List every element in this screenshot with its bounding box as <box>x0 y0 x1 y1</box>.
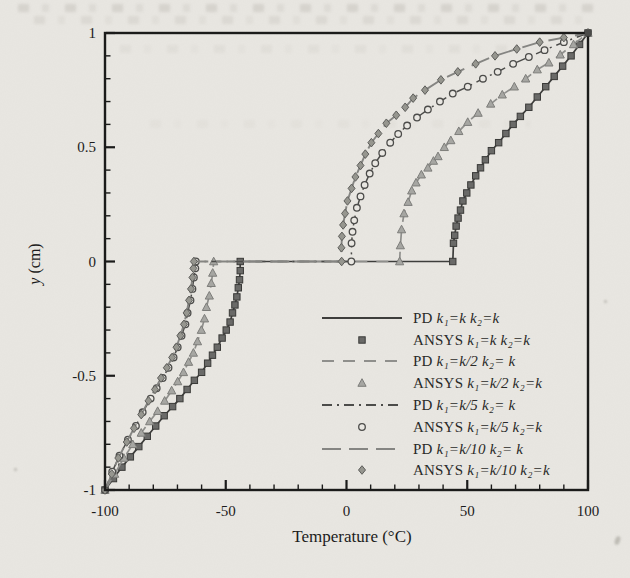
legend-method: ANSYS <box>413 462 463 478</box>
ansys-marker-square <box>237 267 243 273</box>
x-tick-label: -50 <box>216 503 236 519</box>
ansys-marker-square <box>495 139 501 145</box>
ansys-marker-circle <box>510 61 517 68</box>
legend-square-marker <box>359 337 365 343</box>
legend-entry-ansys-k1-k2: ANSYS k₁=k/2 k₂=k <box>413 376 542 391</box>
ansys-marker-square <box>455 215 461 221</box>
ansys-marker-circle <box>541 47 548 54</box>
ansys-marker-circle <box>414 114 421 121</box>
ansys-marker-square <box>219 335 225 341</box>
x-axis-title: Temperature (°C) <box>292 527 411 546</box>
legend-entry-pd-k1-k: PD k₁=k k₂=k <box>413 311 499 326</box>
ansys-marker-circle <box>404 122 411 129</box>
ansys-marker-square <box>177 395 183 401</box>
y-tick-label: 1 <box>89 25 97 41</box>
x-tick-label: 50 <box>460 503 475 519</box>
legend-params: k₁=k/10 k₂= k <box>437 441 524 457</box>
ansys-marker-circle <box>425 106 432 113</box>
ansys-marker-square <box>468 182 474 188</box>
ansys-marker-square <box>534 94 540 100</box>
ansys-marker-circle <box>494 69 501 76</box>
ansys-marker-circle <box>464 83 471 90</box>
corner-convergence-dot <box>585 30 592 37</box>
ansys-marker-circle <box>379 150 386 157</box>
y-tick-label: -1 <box>84 482 97 498</box>
legend-params: k₁=k/10 k₂=k <box>467 462 550 478</box>
ansys-marker-square <box>209 352 215 358</box>
ansys-marker-square <box>543 83 549 89</box>
ansys-marker-square <box>457 207 463 213</box>
ansys-marker-square <box>223 327 229 333</box>
ansys-marker-square <box>451 232 457 238</box>
ansys-marker-square <box>227 319 233 325</box>
ansys-marker-square <box>450 240 456 246</box>
legend-entry-ansys-k1-k: ANSYS k₁=k k₂=k <box>413 333 530 348</box>
ansys-marker-circle <box>480 75 487 82</box>
ansys-marker-square <box>517 113 523 119</box>
legend-entry-ansys-k1-k10: ANSYS k₁=k/10 k₂=k <box>413 463 550 478</box>
y-tick-label: -0.5 <box>72 368 96 384</box>
legend-params: k₁=k/5 k₂=k <box>467 419 542 435</box>
ansys-marker-square <box>184 386 190 392</box>
ansys-marker-circle <box>449 90 456 97</box>
temperature-profile-chart: -100-50050100-1-0.500.51 Temperature (°C… <box>0 0 630 578</box>
y-axis-title: y (cm) <box>26 243 44 286</box>
legend-params: k₁=k k₂=k <box>437 310 500 326</box>
y-tick-label: 0 <box>89 254 97 270</box>
ansys-marker-square <box>236 277 242 283</box>
ansys-marker-square <box>450 258 456 264</box>
legend-method: ANSYS <box>413 375 463 391</box>
ansys-marker-square <box>169 403 175 409</box>
legend-entry-ansys-k1-k5: ANSYS k₁=k/5 k₂=k <box>413 420 542 435</box>
ansys-marker-square <box>460 198 466 204</box>
legend-params: k₁=k k₂=k <box>467 332 530 348</box>
ansys-marker-circle <box>437 98 444 105</box>
ansys-marker-circle <box>357 193 364 200</box>
ansys-marker-square <box>191 377 197 383</box>
legend-method: PD <box>413 353 433 369</box>
ansys-marker-square <box>198 369 204 375</box>
ansys-marker-circle <box>351 217 358 224</box>
ansys-marker-square <box>477 165 483 171</box>
ansys-marker-circle <box>372 160 379 167</box>
legend-params: k₁=k/2 k₂=k <box>467 375 542 391</box>
ansys-marker-square <box>503 130 509 136</box>
ansys-marker-circle <box>395 131 402 138</box>
ansys-marker-square <box>235 285 241 291</box>
x-tick-label: 100 <box>577 503 600 519</box>
legend-method: ANSYS <box>413 419 463 435</box>
legend-entry-pd-k1-k2: PD k₁=k/2 k₂= k <box>413 354 515 369</box>
ansys-marker-circle <box>361 182 368 189</box>
ansys-marker-square <box>482 157 488 163</box>
ansys-marker-circle <box>387 139 394 146</box>
ansys-marker-square <box>229 310 235 316</box>
legend-entry-pd-k1-k10: PD k₁=k/10 k₂= k <box>413 442 523 457</box>
scanned-page: -100-50050100-1-0.500.51 Temperature (°C… <box>0 0 630 578</box>
ansys-marker-square <box>473 173 479 179</box>
ansys-marker-square <box>161 413 167 419</box>
ansys-marker-circle <box>354 205 361 212</box>
ansys-marker-circle <box>348 258 355 265</box>
legend-method: PD <box>413 397 433 413</box>
ansys-marker-square <box>559 63 565 69</box>
legend-params: k₁=k/2 k₂= k <box>437 353 516 369</box>
y-axis-title-unit: (cm) <box>26 243 44 277</box>
ansys-marker-square <box>551 73 557 79</box>
ansys-marker-square <box>510 121 516 127</box>
legend-method: ANSYS <box>413 332 463 348</box>
ansys-marker-square <box>214 344 220 350</box>
legend-method: PD <box>413 441 433 457</box>
legend-params: k₁=k/5 k₂= k <box>437 397 516 413</box>
ansys-marker-square <box>568 53 574 59</box>
x-tick-label: -100 <box>91 503 119 519</box>
legend-method: PD <box>413 310 433 326</box>
ansys-marker-square <box>488 147 494 153</box>
ansys-marker-square <box>453 223 459 229</box>
legend-entry-pd-k1-k5: PD k₁=k/5 k₂= k <box>413 398 515 413</box>
y-tick-label: 0.5 <box>77 139 96 155</box>
ansys-marker-circle <box>526 54 533 61</box>
ansys-marker-square <box>526 104 532 110</box>
ansys-marker-circle <box>366 170 373 177</box>
ansys-marker-square <box>204 360 210 366</box>
ansys-marker-square <box>464 190 470 196</box>
